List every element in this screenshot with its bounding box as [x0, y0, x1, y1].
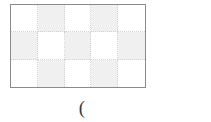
grid-cell-r2c2	[38, 32, 65, 59]
grid-cell-r1c5	[118, 5, 145, 32]
grid-cell-r1c4	[91, 5, 118, 32]
grid-cell-r1c3	[65, 5, 92, 32]
grid-cell-r1c2	[38, 5, 65, 32]
grid-cell-r2c1	[11, 32, 38, 59]
checkerboard-grid	[10, 4, 146, 88]
checkerboard-figure: (	[0, 0, 211, 122]
grid-cell-r2c5	[118, 32, 145, 59]
grid-cell-r3c3	[65, 60, 92, 87]
grid-cell-r1c1	[11, 5, 38, 32]
figure-caption-glyph: (	[70, 96, 94, 120]
grid-cell-r2c4	[91, 32, 118, 59]
grid-cell-r3c4	[91, 60, 118, 87]
grid-cell-r3c5	[118, 60, 145, 87]
grid-cell-r2c3	[65, 32, 92, 59]
grid-cell-r3c2	[38, 60, 65, 87]
grid-cell-r3c1	[11, 60, 38, 87]
